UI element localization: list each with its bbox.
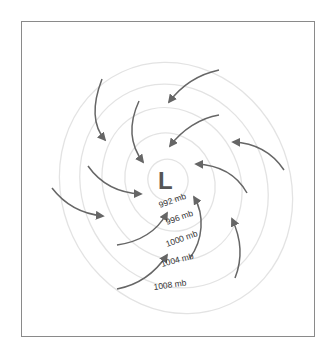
wind-arrow-4 [170, 115, 219, 146]
wind-arrow-6 [196, 164, 247, 193]
wind-arrow-5 [233, 142, 284, 170]
low-pressure-diagram: L 992 mb 996 mb 1000 mb 1004 mb 1008 mb [0, 0, 334, 356]
wind-arrow-2 [132, 101, 143, 162]
isobar-label-1004: 1004 mb [160, 251, 195, 269]
isobar-1008 [19, 24, 334, 352]
isobar-label-1008: 1008 mb [153, 277, 187, 292]
wind-arrow-7 [88, 166, 141, 194]
low-center-label: L [158, 167, 173, 194]
isobar-label-996: 996 mb [164, 208, 194, 227]
isobars [19, 24, 334, 352]
